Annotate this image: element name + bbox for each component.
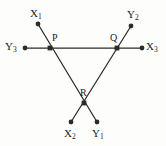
figure-canvas [0,0,166,146]
label-P: P [52,33,58,43]
intersection-Q-dot [115,46,120,51]
endpoint-X1-dot [36,22,41,27]
label-Y1: Y1 [92,128,104,141]
label-X3: X3 [146,41,158,54]
label-Y2: Y2 [127,9,139,22]
geometry-figure: X1 Y2 Y3 X3 X2 Y1 P Q R [0,0,166,146]
dots-group [23,22,145,125]
endpoint-X2-dot [69,120,74,125]
label-X1: X1 [30,8,42,21]
label-X2: X2 [64,128,76,141]
endpoint-X3-dot [140,46,145,51]
label-Y3: Y3 [5,41,17,54]
intersection-P-dot [48,46,53,51]
line-X1-Y1 [38,24,97,122]
endpoint-Y1-dot [95,120,100,125]
label-Q: Q [110,33,117,43]
endpoint-Y3-dot [23,46,28,51]
lines-group [25,24,142,122]
line-Y2-X2 [71,26,131,122]
intersection-R-dot [82,101,87,106]
endpoint-Y2-dot [129,24,134,29]
label-R: R [80,88,87,98]
